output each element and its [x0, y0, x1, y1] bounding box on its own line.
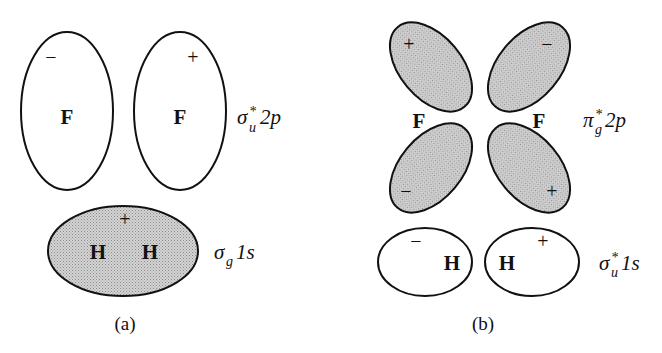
- sign-plus: +: [546, 180, 557, 202]
- atom-f-left: F: [61, 105, 74, 129]
- pi-lobe-bottom-left: [374, 108, 488, 228]
- sign-minus: −: [400, 180, 411, 202]
- sign-plus: +: [537, 230, 548, 252]
- sign-plus: +: [403, 33, 414, 55]
- svg-text:1s: 1s: [621, 251, 640, 275]
- svg-text:π: π: [583, 108, 594, 132]
- atom-f-right: F: [174, 105, 187, 129]
- atom-f-left: F: [413, 109, 426, 133]
- pi-lobe-bottom-right: [472, 108, 586, 228]
- pi-lobe-top-left: [374, 7, 488, 127]
- svg-text:σ: σ: [599, 251, 611, 275]
- sign-minus: −: [410, 230, 421, 252]
- orbital-label-pi-g-star-2p: π g * 2p: [583, 107, 626, 137]
- sign-plus: +: [187, 46, 198, 68]
- svg-text:1s: 1s: [236, 240, 255, 264]
- orbital-label-sigma-g-1s: σ g 1s: [214, 240, 255, 269]
- atom-h-right: H: [142, 240, 158, 264]
- pi-lobe-top-right: [472, 7, 586, 127]
- atom-h-left: H: [90, 240, 106, 264]
- caption-b: (b): [472, 313, 494, 335]
- svg-text:g: g: [226, 254, 233, 269]
- svg-text:σ: σ: [237, 105, 249, 129]
- svg-text:*: *: [249, 104, 256, 119]
- svg-text:2p: 2p: [605, 108, 626, 132]
- orbital-label-sigma-u-star-1s: σ u * 1s: [599, 250, 640, 280]
- sign-plus: +: [119, 208, 130, 230]
- orbital-label-sigma-u-star-2p: σ u * 2p: [237, 104, 281, 135]
- svg-text:g: g: [595, 122, 602, 137]
- atom-h-left: H: [444, 251, 460, 275]
- caption-a: (a): [114, 313, 135, 335]
- orbital-diagram: − + F F σ u * 2p + H H σ g 1s (a) + − − …: [0, 0, 662, 353]
- svg-text:u: u: [611, 265, 618, 280]
- svg-text:u: u: [249, 120, 256, 135]
- svg-text:*: *: [611, 250, 618, 265]
- panel-a: − + F F σ u * 2p + H H σ g 1s (a): [21, 32, 281, 335]
- svg-text:*: *: [595, 107, 602, 122]
- svg-text:2p: 2p: [260, 105, 281, 129]
- atom-h-right: H: [499, 251, 515, 275]
- sign-minus: −: [45, 46, 56, 68]
- sign-minus: −: [541, 33, 552, 55]
- atom-f-right: F: [533, 109, 546, 133]
- panel-b: + − − + F F π g * 2p − + H H σ u * 1s (b…: [374, 7, 640, 335]
- svg-text:σ: σ: [214, 240, 226, 264]
